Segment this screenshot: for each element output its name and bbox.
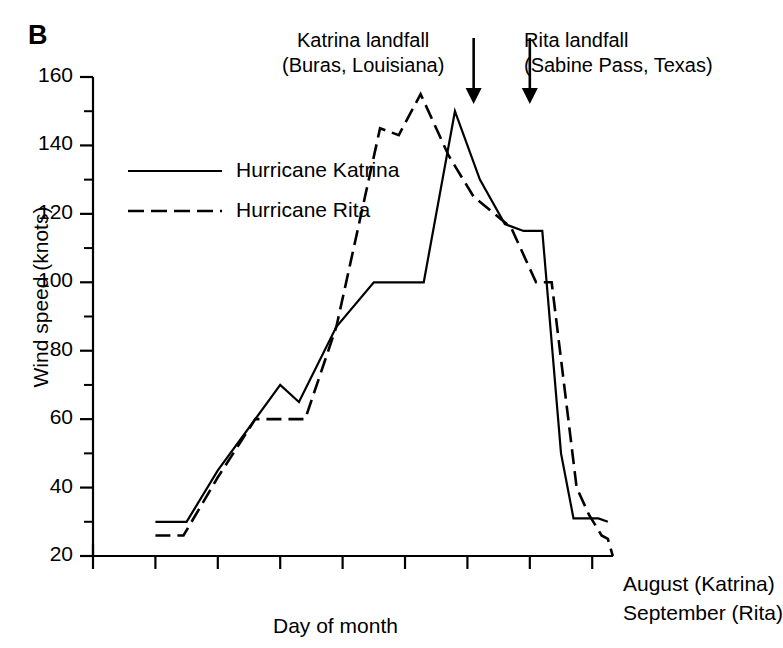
y-tick-label: 160 bbox=[17, 63, 73, 87]
y-tick-label: 60 bbox=[17, 405, 73, 429]
y-tick-label: 100 bbox=[17, 268, 73, 292]
axis-lines bbox=[93, 77, 613, 556]
y-tick-label: 20 bbox=[17, 542, 73, 566]
series-line-rita bbox=[155, 94, 612, 556]
y-tick-label: 120 bbox=[17, 200, 73, 224]
landfall-arrows bbox=[466, 38, 538, 104]
legend-line-samples bbox=[128, 171, 222, 211]
y-tick-label: 80 bbox=[17, 337, 73, 361]
arrow-head-katrina-landfall bbox=[466, 88, 482, 104]
arrow-head-rita-landfall bbox=[522, 88, 538, 104]
series-line-katrina bbox=[155, 111, 607, 522]
y-tick-label: 140 bbox=[17, 131, 73, 155]
y-tick-label: 40 bbox=[17, 474, 73, 498]
data-series bbox=[155, 94, 612, 556]
